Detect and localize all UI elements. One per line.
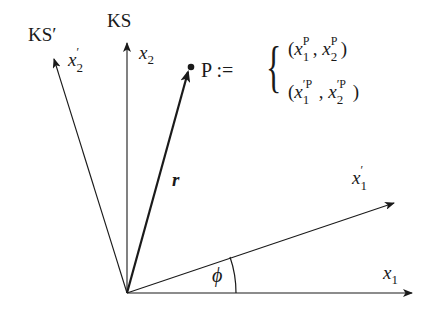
x2-prime-var: x: [68, 49, 76, 70]
r-vector-label: r: [172, 170, 179, 189]
frame-ks-prime-label: KS′: [28, 25, 56, 44]
frame-ks-label: KS: [107, 11, 131, 30]
x2-prime-axis-label: x′2: [68, 50, 86, 71]
x1-axis-label: x1: [383, 263, 398, 282]
x1-prime-axis-label: x′1: [352, 168, 370, 189]
x2-prime-script: ′2: [76, 52, 86, 71]
point-p-name: P: [201, 59, 211, 81]
x2-axis-label: x2: [139, 43, 154, 62]
x2-prime-axis: [54, 59, 127, 293]
point-p-coords-primed: (x′P1, x′P2): [288, 82, 359, 103]
angle-phi-arc: [230, 257, 236, 293]
point-p-coords-unprimed: (xP1, xP2): [288, 39, 347, 60]
x2-sub: 2: [147, 52, 154, 67]
point-p-dot: [188, 64, 195, 71]
left-brace: {: [266, 38, 281, 96]
angle-phi-label: ϕ: [212, 265, 222, 285]
point-p-label: P :=: [201, 60, 233, 80]
x1-prime-axis: [127, 203, 394, 293]
point-p-definition: :=: [216, 59, 233, 81]
